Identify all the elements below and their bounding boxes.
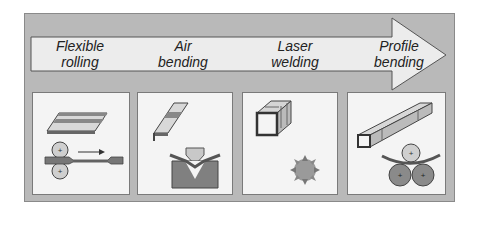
label-line: bending xyxy=(138,54,228,70)
label-line: Flexible xyxy=(35,38,125,54)
panel-flexible-rolling: + + xyxy=(32,92,130,195)
panel-air-bending xyxy=(137,92,233,195)
label-line: Air xyxy=(138,38,228,54)
step-label-profile-bending: Profile bending xyxy=(354,38,444,70)
flexible-rolling-icon: + + xyxy=(33,93,131,196)
svg-text:+: + xyxy=(58,167,63,176)
step-label-flexible-rolling: Flexible rolling xyxy=(35,38,125,70)
label-line: bending xyxy=(354,54,444,70)
step-label-air-bending: Air bending xyxy=(138,38,228,70)
profile-bending-icon: + + + xyxy=(348,93,447,196)
svg-text:+: + xyxy=(58,146,63,155)
panel-laser-welding xyxy=(242,92,338,195)
step-label-laser-welding: Laser welding xyxy=(250,38,340,70)
label-line: Laser xyxy=(250,38,340,54)
label-line: rolling xyxy=(35,54,125,70)
svg-text:+: + xyxy=(421,171,426,180)
laser-welding-icon xyxy=(243,93,339,196)
svg-text:+: + xyxy=(409,149,414,158)
label-line: welding xyxy=(250,54,340,70)
air-bending-icon xyxy=(138,93,234,196)
label-line: Profile xyxy=(354,38,444,54)
spark-icon xyxy=(290,155,320,185)
svg-text:+: + xyxy=(398,171,403,180)
panel-profile-bending: + + + xyxy=(347,92,446,195)
